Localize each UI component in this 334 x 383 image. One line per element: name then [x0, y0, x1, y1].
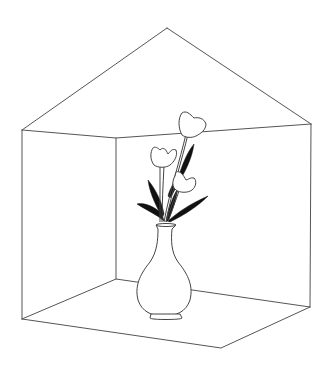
- flowers: [151, 112, 206, 192]
- vase: [137, 224, 191, 320]
- roof-right-edge: [167, 28, 311, 124]
- flower-icon-left: [151, 147, 177, 167]
- flower-icon-right: [173, 172, 196, 193]
- illustration-canvas: Vase of flowers in a room corner: [0, 0, 334, 383]
- right-vertical-edge: [310, 124, 311, 307]
- room-drawing: [0, 0, 334, 383]
- flower-icon-top: [179, 112, 206, 137]
- vase-foot: [150, 314, 182, 320]
- vase-body: [137, 225, 191, 316]
- wall-top-edge: [22, 124, 311, 138]
- roof-left-edge: [22, 28, 167, 130]
- vase-mouth: [156, 224, 176, 227]
